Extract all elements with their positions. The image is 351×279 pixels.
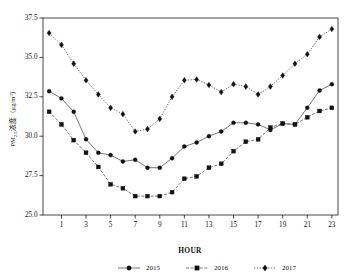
data-point-2016-h8 xyxy=(146,194,150,198)
x-tick-label: 5 xyxy=(109,221,113,229)
x-tick-label: 7 xyxy=(133,221,137,229)
data-point-2015-h2 xyxy=(72,110,76,114)
data-point-2015-h16 xyxy=(244,121,248,125)
data-point-2015-h15 xyxy=(232,121,236,125)
data-point-2016-h3 xyxy=(84,151,88,155)
y-axis-title-tail: ） xyxy=(9,87,16,94)
data-point-2015-h3 xyxy=(84,137,88,141)
data-point-2015-h8 xyxy=(145,166,149,170)
x-tick-label: 13 xyxy=(205,221,213,229)
legend-label-2015: 2015 xyxy=(146,264,161,272)
data-point-2015-h13 xyxy=(207,134,211,138)
x-axis-title: HOUR xyxy=(178,246,202,255)
data-point-2015-h9 xyxy=(158,166,162,170)
data-point-2015-h6 xyxy=(121,159,125,163)
x-tick-label: 1 xyxy=(60,221,64,229)
data-point-2016-h18 xyxy=(268,126,272,130)
x-tick-label: 15 xyxy=(230,221,238,229)
data-point-2015-h1 xyxy=(59,96,63,100)
data-point-2015-h22 xyxy=(318,89,322,93)
x-tick-label: 9 xyxy=(158,221,162,229)
data-point-2016-h0 xyxy=(47,110,51,114)
data-point-2016-h21 xyxy=(305,115,309,119)
data-point-2016-h5 xyxy=(109,182,113,186)
x-tick-label: 19 xyxy=(279,221,287,229)
x-tick-label: 17 xyxy=(255,221,263,229)
y-axis-title-prefix: PM xyxy=(9,137,16,147)
data-point-2016-h1 xyxy=(60,122,64,126)
data-point-2016-h2 xyxy=(72,138,76,142)
data-point-2016-h11 xyxy=(182,177,186,181)
data-point-2015-h11 xyxy=(182,144,186,148)
legend-label-2017: 2017 xyxy=(282,264,297,272)
legend-marker-2016 xyxy=(195,266,199,270)
data-point-2016-h19 xyxy=(281,122,285,126)
x-tick-label: 11 xyxy=(181,221,188,229)
y-axis-title-suffix: 浓度（μg/m xyxy=(8,96,17,132)
data-point-2015-h14 xyxy=(219,129,223,133)
data-point-2015-h21 xyxy=(305,106,309,110)
data-point-2016-h16 xyxy=(244,140,248,144)
x-tick-label: 23 xyxy=(328,221,336,229)
data-point-2016-h10 xyxy=(170,190,174,194)
x-tick-label: 3 xyxy=(84,221,88,229)
data-point-2016-h7 xyxy=(133,194,137,198)
data-point-2015-h10 xyxy=(170,156,174,160)
data-point-2016-h14 xyxy=(219,162,223,166)
data-point-2015-h7 xyxy=(133,158,137,162)
data-point-2016-h4 xyxy=(96,165,100,169)
data-point-2016-h22 xyxy=(318,109,322,113)
data-point-2016-h12 xyxy=(195,174,199,178)
data-point-2016-h9 xyxy=(158,194,162,198)
pm25-hourly-line-chart: 25.027.530.032.535.037.5 135791113151719… xyxy=(0,0,351,279)
data-point-2016-h6 xyxy=(121,186,125,190)
legend-label-2016: 2016 xyxy=(214,264,229,272)
y-tick-label: 37.5 xyxy=(25,14,38,22)
data-point-2016-h17 xyxy=(256,137,260,141)
data-point-2015-h23 xyxy=(330,82,334,86)
data-point-2016-h23 xyxy=(330,106,334,110)
chart-background xyxy=(0,0,351,279)
x-tick-label: 21 xyxy=(304,221,312,229)
y-tick-label: 25.0 xyxy=(25,211,38,219)
data-point-2015-h5 xyxy=(109,153,113,157)
data-point-2016-h15 xyxy=(232,149,236,153)
legend-marker-2015 xyxy=(127,266,131,270)
chart-figure: 25.027.530.032.535.037.5 135791113151719… xyxy=(0,0,351,279)
data-point-2016-h20 xyxy=(293,122,297,126)
data-point-2015-h0 xyxy=(47,89,51,93)
data-point-2015-h17 xyxy=(256,122,260,126)
y-tick-label: 27.5 xyxy=(25,171,38,179)
y-tick-label: 30.0 xyxy=(25,132,38,140)
y-tick-label: 35.0 xyxy=(25,53,38,61)
data-point-2015-h12 xyxy=(195,141,199,145)
data-point-2015-h4 xyxy=(96,151,100,155)
y-tick-label: 32.5 xyxy=(25,92,38,100)
data-point-2016-h13 xyxy=(207,166,211,170)
